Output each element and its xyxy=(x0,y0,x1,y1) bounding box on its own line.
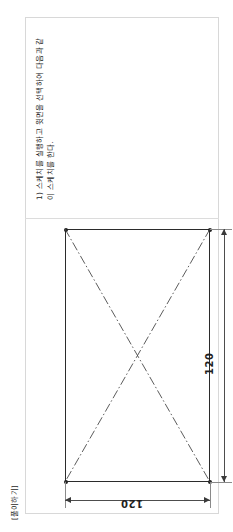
extension-line-right xyxy=(210,482,211,508)
arrow-up-icon xyxy=(221,229,227,235)
dimension-horizontal: 120 xyxy=(65,482,210,512)
section-label: [풀이하기] xyxy=(9,485,19,520)
technical-drawing: 120 120 xyxy=(25,219,219,514)
extension-line-bottom xyxy=(210,482,232,483)
dimension-value-vertical: 120 xyxy=(204,353,215,375)
arrow-left-icon xyxy=(65,497,71,503)
dimension-value-horizontal: 120 xyxy=(121,498,143,509)
arrow-down-icon xyxy=(221,476,227,482)
scanned-page: [풀이하기] 1) 스케치를 실행하고 윗면을 선택하여 다음과 같 이 스케치… xyxy=(0,0,233,532)
construction-diagonals xyxy=(65,229,210,482)
dimension-vertical: 120 xyxy=(210,229,233,482)
dimension-line-vertical xyxy=(224,229,225,482)
instruction-line-1: 1) 스케치를 실행하고 윗면을 선택하여 다음과 같 xyxy=(36,37,43,200)
arrow-right-icon xyxy=(204,497,210,503)
extension-line-left xyxy=(65,482,66,508)
instruction-line-2: 이 스케치를 한다. xyxy=(47,141,54,200)
